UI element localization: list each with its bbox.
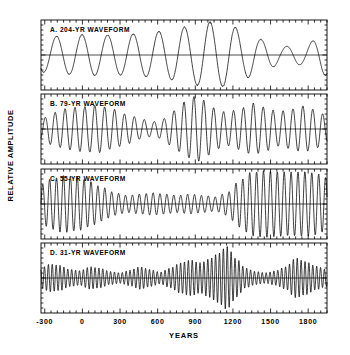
- x-tick-label: 600: [151, 318, 165, 325]
- panel-caption-c: C. 55-YR WAVEFORM: [50, 175, 126, 182]
- panel-caption-d: D. 31-YR WAVEFORM: [50, 249, 126, 256]
- panel-caption-b: B. 79-YR WAVEFORM: [50, 100, 126, 107]
- x-tick-label: 900: [188, 318, 202, 325]
- x-axis-title: YEARS: [41, 331, 327, 340]
- x-tick-label: 0: [80, 318, 85, 325]
- x-tick-label: 1500: [261, 318, 279, 325]
- waveform-figure: RELATIVE AMPLITUDE A. 204-YR WAVEFORMB. …: [0, 0, 350, 355]
- x-tick-label: 300: [113, 318, 127, 325]
- x-tick-label: -300: [36, 318, 53, 325]
- x-tick-label: 1200: [224, 318, 242, 325]
- x-axis-title-text: YEARS: [169, 331, 199, 340]
- x-tick-label: 1800: [299, 318, 317, 325]
- panel-caption-a: A. 204-YR WAVEFORM: [50, 26, 130, 33]
